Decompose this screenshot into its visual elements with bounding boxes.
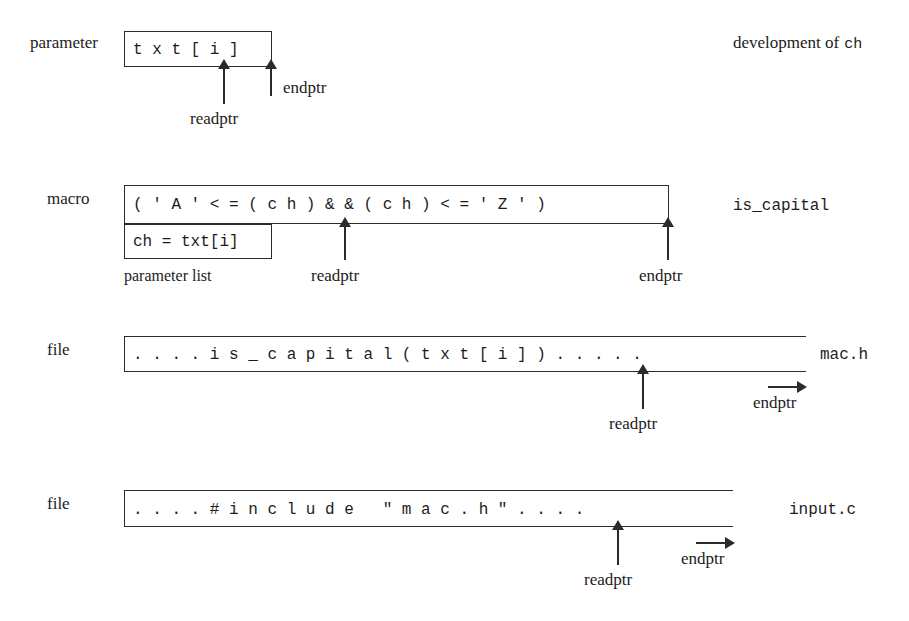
input-c-endptr-arrow: [696, 542, 726, 544]
macro-readptr-label: readptr: [311, 267, 359, 284]
parameter-readptr-label: readptr: [190, 110, 238, 127]
development-ch-mono: ch: [844, 36, 862, 53]
macro-endptr-arrow: [667, 226, 669, 260]
macro-endptr-label: endptr: [639, 267, 682, 284]
diagram-canvas: parameter t x t [ i ] readptr endptr dev…: [0, 0, 909, 621]
row-right-label-input-c: input.c: [789, 502, 856, 518]
macro-box-text: ( ' A ' < = ( c h ) & & ( c h ) < = ' Z …: [133, 197, 546, 213]
parameter-endptr-arrow: [270, 68, 272, 96]
mac-h-text: . . . . i s _ c a p i t a l ( t x t [ i …: [133, 347, 642, 363]
mac-h-readptr-arrow: [642, 373, 644, 409]
parameter-readptr-arrow: [223, 68, 225, 104]
row-right-label-mac-h: mac.h: [820, 347, 868, 363]
parameter-endptr-label: endptr: [283, 79, 326, 96]
parameter-list-caption: parameter list: [124, 268, 212, 284]
macro-readptr-arrow: [344, 226, 346, 260]
input-c-readptr-label: readptr: [584, 571, 632, 588]
row-right-label-is-capital: is_capital: [733, 198, 829, 214]
row-right-label-development: development ofch: [733, 34, 862, 52]
input-c-text: . . . . # i n c l u d e " m a c . h " . …: [133, 502, 584, 518]
row-label-macro: macro: [47, 190, 89, 207]
mac-h-readptr-label: readptr: [609, 415, 657, 432]
mac-h-endptr-label: endptr: [753, 394, 796, 411]
development-text: development of: [733, 33, 839, 52]
row-label-parameter: parameter: [30, 34, 98, 51]
row-label-file-mac-h: file: [47, 341, 70, 358]
input-c-endptr-label: endptr: [681, 550, 724, 567]
parameter-list-text: ch = txt[i]: [133, 234, 239, 250]
row-label-file-input-c: file: [47, 495, 70, 512]
mac-h-endptr-arrow: [768, 386, 798, 388]
parameter-box-text: t x t [ i ]: [133, 42, 239, 58]
input-c-readptr-arrow: [617, 529, 619, 565]
